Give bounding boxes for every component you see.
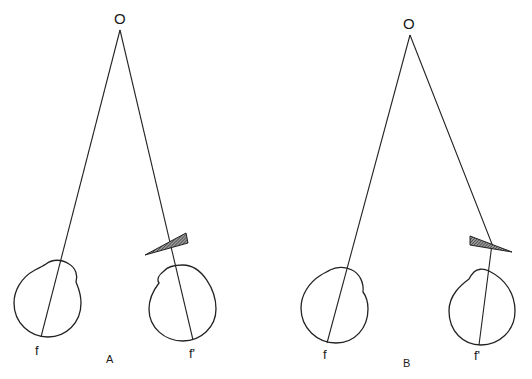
right-eye-b xyxy=(449,269,515,345)
fovea-label-right-b: f' xyxy=(474,348,480,363)
fovea-label-left-a: f xyxy=(35,343,39,358)
binocular-prism-diagram: O f f' A O f f' B xyxy=(0,0,532,379)
panel-b: O f f' B xyxy=(301,15,515,369)
prism-wedge-a xyxy=(145,233,188,255)
left-eye-ray-b xyxy=(327,35,410,343)
fovea-label-right-a: f' xyxy=(189,346,195,361)
left-eye-b xyxy=(301,267,368,343)
panel-label-b: B xyxy=(403,357,410,369)
object-point-label-a: O xyxy=(114,10,126,27)
fovea-label-left-b: f xyxy=(323,347,327,362)
panel-label-a: A xyxy=(106,353,114,365)
right-eye-a xyxy=(149,265,216,341)
left-eye-a xyxy=(14,260,81,337)
right-eye-ray-a xyxy=(120,30,193,340)
panel-a: O f f' A xyxy=(14,10,216,365)
object-point-label-b: O xyxy=(403,15,415,32)
left-eye-ray-a xyxy=(41,30,120,337)
